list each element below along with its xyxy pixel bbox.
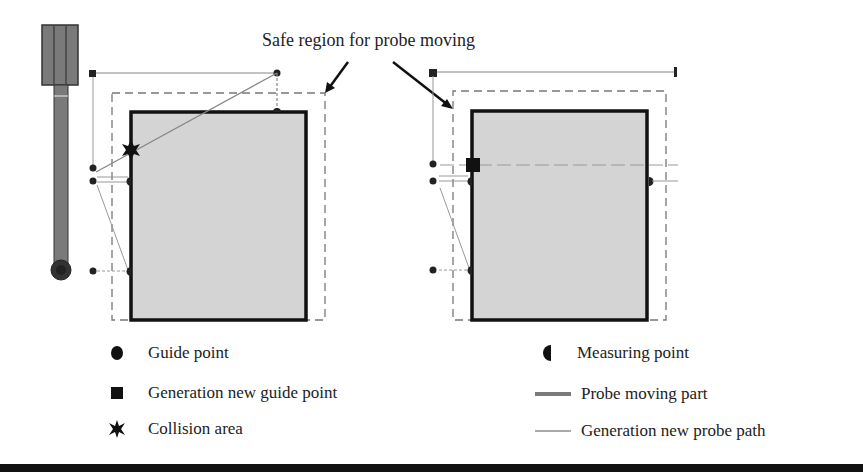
asterisk-icon (106, 420, 128, 438)
left-panel (89, 70, 325, 321)
legend-measuring-point: Measuring point (535, 343, 689, 363)
legend-label: Generation new guide point (148, 383, 337, 403)
legend-label: Guide point (148, 343, 229, 363)
safe-region-annotation: Safe region for probe moving (262, 30, 475, 51)
thin-line-icon (535, 422, 571, 440)
half-circle-icon (535, 344, 557, 362)
legend-label: Measuring point (577, 343, 689, 363)
right-panel (429, 67, 678, 320)
legend-guide-point: Guide point (106, 343, 229, 363)
legend-new-guide-point: Generation new guide point (106, 383, 337, 403)
square-icon (106, 384, 128, 402)
legend-collision-area: Collision area (106, 419, 243, 439)
legend-probe-moving-part: Probe moving part (535, 384, 708, 404)
circle-icon (106, 344, 128, 362)
bottom-rule (0, 464, 863, 472)
legend-label: Probe moving part (581, 384, 708, 404)
thick-line-icon (535, 385, 571, 403)
legend-new-probe-path: Generation new probe path (535, 421, 766, 441)
legend-label: Collision area (148, 419, 243, 439)
probe-icon (42, 25, 78, 280)
legend-label: Generation new probe path (581, 421, 766, 441)
